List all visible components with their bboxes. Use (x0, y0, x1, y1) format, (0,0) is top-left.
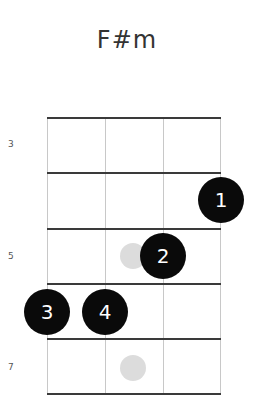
string-line (220, 117, 221, 394)
ghost-marker (120, 355, 146, 381)
finger-dot-2: 2 (140, 233, 186, 279)
fret-line (47, 172, 221, 174)
finger-dot-4: 4 (82, 289, 128, 335)
fret-line (47, 393, 221, 395)
string-line (47, 117, 48, 394)
fret-line (47, 228, 221, 230)
finger-dot-3: 3 (24, 289, 70, 335)
fret-line (47, 338, 221, 340)
fret-line (47, 283, 221, 285)
string-line (105, 117, 106, 394)
chord-title: F#m (0, 26, 254, 54)
fret-label-5: 5 (8, 251, 22, 261)
fret-line (47, 117, 221, 119)
fret-label-7: 7 (8, 362, 22, 372)
finger-dot-1: 1 (198, 177, 244, 223)
fret-label-3: 3 (8, 139, 22, 149)
